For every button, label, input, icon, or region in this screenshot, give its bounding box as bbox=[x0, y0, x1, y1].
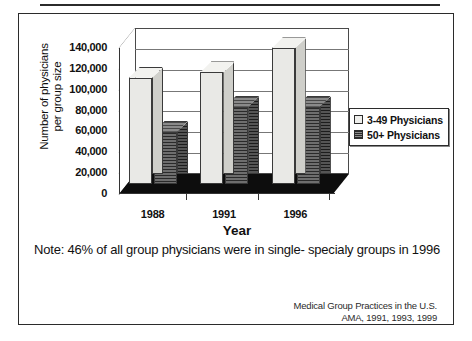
chart-note-line1: Note: 46% of all group physicians were i… bbox=[34, 242, 305, 257]
x-tick-mark bbox=[329, 194, 330, 200]
x-axis-line bbox=[119, 193, 335, 194]
y-tick-label: 0 bbox=[41, 187, 107, 199]
bar-side-face bbox=[152, 68, 163, 174]
legend-label-50-plus: 50+ Physicians bbox=[367, 129, 440, 141]
x-tick-mark bbox=[258, 194, 259, 200]
y-tick-label: 40,000 bbox=[41, 145, 107, 157]
x-category-label-1988: 1988 bbox=[118, 208, 188, 220]
bar-side-face bbox=[223, 62, 234, 174]
legend-swatch-dark-icon bbox=[354, 130, 363, 139]
chart-plot-area: Number of physicians per group size 020,… bbox=[19, 14, 455, 210]
legend-swatch-light-icon bbox=[354, 115, 363, 124]
chart-note: Note: 46% of all group physicians were i… bbox=[33, 240, 441, 259]
y-tick-label: 100,000 bbox=[41, 83, 107, 95]
x-axis-title: Year bbox=[19, 223, 455, 238]
y-tick-label: 80,000 bbox=[41, 104, 107, 116]
bar-1991-series-1[interactable] bbox=[200, 72, 223, 184]
top-divider-rule bbox=[40, 4, 440, 6]
chart-source-line2: AMA, 1991, 1993, 1999 bbox=[137, 312, 437, 324]
x-category-label-1996: 1996 bbox=[260, 208, 330, 220]
y-tick-label: 20,000 bbox=[41, 166, 107, 178]
bar-1996-series-1[interactable] bbox=[272, 48, 295, 184]
gridline bbox=[135, 70, 349, 71]
y-tick-label: 140,000 bbox=[41, 41, 107, 53]
y-tick-label: 60,000 bbox=[41, 124, 107, 136]
x-category-label-1991: 1991 bbox=[189, 208, 259, 220]
y-tick-label: 120,000 bbox=[41, 62, 107, 74]
y-axis-line bbox=[119, 48, 120, 194]
chart-legend: 3-49 Physicians 50+ Physicians bbox=[349, 108, 449, 146]
bar-side-face bbox=[320, 97, 331, 174]
chart-note-line2: specialy groups in 1996 bbox=[308, 242, 440, 257]
bar-side-face bbox=[295, 38, 306, 174]
legend-item-3-49[interactable]: 3-49 Physicians bbox=[354, 112, 443, 127]
bar-front-face bbox=[272, 48, 295, 184]
bar-1988-series-1[interactable] bbox=[129, 78, 152, 184]
gridline bbox=[135, 49, 349, 50]
bar-front-face bbox=[200, 72, 223, 184]
legend-label-3-49: 3-49 Physicians bbox=[367, 114, 443, 126]
x-tick-mark bbox=[186, 194, 187, 200]
chart-source-citation: Medical Group Practices in the U.S. AMA,… bbox=[137, 300, 437, 324]
legend-item-50-plus[interactable]: 50+ Physicians bbox=[354, 127, 443, 142]
bar-front-face bbox=[129, 78, 152, 184]
plot-3d: 198819911996 bbox=[119, 28, 349, 194]
figure-frame: Number of physicians per group size 020,… bbox=[18, 13, 454, 325]
bar-side-face bbox=[248, 97, 259, 174]
chart-source-line1: Medical Group Practices in the U.S. bbox=[137, 300, 437, 312]
gridline bbox=[135, 91, 349, 92]
